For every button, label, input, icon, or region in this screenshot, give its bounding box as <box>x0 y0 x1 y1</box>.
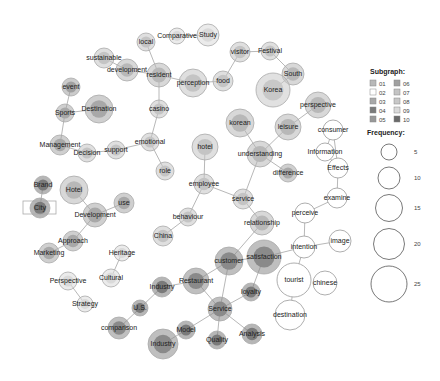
node-label: food <box>216 77 230 84</box>
node-approach[interactable]: Approach <box>58 231 88 251</box>
node-understanding[interactable]: understanding <box>238 141 282 167</box>
node-use[interactable]: use <box>114 193 134 213</box>
subgraph-legend-item-01: 01 <box>370 80 386 87</box>
node-comparison[interactable]: comparison <box>101 317 137 339</box>
node-perceive[interactable]: perceive <box>292 203 319 223</box>
legend: Subgraph: 01020304050607080910 Frequency… <box>367 68 421 302</box>
node-restaurant[interactable]: Restaurant <box>179 268 213 294</box>
frequency-circle <box>374 229 405 260</box>
node-label: Cultural <box>99 274 124 281</box>
node-heritage[interactable]: Heritage <box>109 245 136 261</box>
node-food[interactable]: food <box>213 71 233 91</box>
subgraph-legend-item-10: 10 <box>394 116 410 123</box>
node-china[interactable]: China <box>153 226 173 246</box>
node-comparative[interactable]: Comparative <box>157 28 197 44</box>
node-label: Effects <box>327 164 349 171</box>
frequency-legend-item-25: 25 <box>371 266 421 302</box>
node-behaviour[interactable]: behaviour <box>173 208 204 226</box>
node-resident[interactable]: resident <box>147 63 172 87</box>
node-marketing[interactable]: Marketing <box>34 243 65 263</box>
node-image[interactable]: image <box>329 230 351 252</box>
node-label: examine <box>324 194 351 201</box>
node-label: Restaurant <box>179 277 213 284</box>
node-label: Perspective <box>50 277 87 285</box>
subgraph-legend-item-04: 04 <box>370 107 386 114</box>
node-label: City <box>34 204 47 212</box>
node-quality[interactable]: Quality <box>206 331 228 349</box>
node-label: local <box>139 38 154 45</box>
node-destination2[interactable]: destination <box>273 300 307 330</box>
node-label: role <box>159 167 171 174</box>
node-emotional[interactable]: emotional <box>135 133 166 151</box>
node-development2[interactable]: Development <box>74 203 115 227</box>
frequency-circle <box>381 144 397 160</box>
node-chinese[interactable]: chinese <box>313 271 337 295</box>
node-relationship[interactable]: relationship <box>244 211 280 235</box>
node-perspective2[interactable]: Perspective <box>50 272 87 290</box>
node-label: Korea <box>264 86 283 93</box>
subgraph-legend-item-08: 08 <box>394 98 410 105</box>
node-service1[interactable]: service <box>232 189 254 209</box>
subgraph-legend-item-07: 07 <box>394 89 410 96</box>
node-examine[interactable]: examine <box>324 188 351 208</box>
node-korean[interactable]: korean <box>226 109 254 137</box>
subgraph-legend-item-06: 06 <box>394 80 410 87</box>
node-label: development <box>107 66 147 74</box>
nodes-layer: localComparativeStudysustainabledevelopm… <box>30 24 351 359</box>
frequency-circle <box>378 167 400 189</box>
node-us[interactable]: U.S. <box>132 300 148 316</box>
subgraph-legend-title: Subgraph: <box>370 68 405 76</box>
frequency-legend-item-10: 10 <box>378 167 421 189</box>
node-model[interactable]: Model <box>176 321 196 339</box>
node-label: Festival <box>258 47 283 54</box>
node-event[interactable]: event <box>62 78 80 96</box>
node-visitor[interactable]: visitor <box>230 42 250 62</box>
node-festival[interactable]: Festival <box>258 42 283 60</box>
node-loyalty[interactable]: loyalty <box>241 283 261 301</box>
frequency-legend-items: 510152025 <box>371 144 421 302</box>
node-intention[interactable]: intention <box>291 236 318 258</box>
node-brand[interactable]: Brand <box>34 176 53 194</box>
node-label: leisure <box>278 123 299 130</box>
node-strategy[interactable]: Strategy <box>72 296 99 312</box>
node-destination1[interactable]: Destination <box>81 95 116 123</box>
node-tourist[interactable]: tourist <box>277 263 311 297</box>
node-hotel1[interactable]: hotel <box>192 134 218 160</box>
node-perception[interactable]: perception <box>177 69 210 97</box>
node-sports[interactable]: Sports <box>55 104 76 122</box>
subgraph-label: 04 <box>379 108 386 114</box>
frequency-legend-item-5: 5 <box>381 144 418 160</box>
node-label: Industry <box>150 283 175 291</box>
node-cultural[interactable]: Cultural <box>99 269 124 287</box>
node-support[interactable]: support <box>104 141 127 159</box>
node-korea[interactable]: Korea <box>256 73 290 107</box>
frequency-label: 20 <box>414 241 421 247</box>
node-study[interactable]: Study <box>197 24 219 46</box>
subgraph-label: 10 <box>403 117 410 123</box>
node-satisfaction[interactable]: satisfaction <box>246 240 281 274</box>
subgraph-legend-item-02: 02 <box>370 89 386 96</box>
node-label: behaviour <box>173 213 204 220</box>
node-leisure[interactable]: leisure <box>275 114 301 140</box>
node-local[interactable]: local <box>137 33 155 51</box>
node-hotel2[interactable]: Hotel <box>60 176 88 204</box>
frequency-label: 5 <box>414 149 418 155</box>
node-industry1[interactable]: Industry <box>150 277 175 297</box>
node-customer[interactable]: customer <box>215 247 244 275</box>
node-label: use <box>118 199 129 206</box>
node-consumer[interactable]: consumer <box>318 120 349 140</box>
node-industry2[interactable]: Industry <box>148 329 178 359</box>
node-label: Approach <box>58 237 88 245</box>
node-label: Destination <box>81 105 116 112</box>
node-employee[interactable]: employee <box>189 174 219 194</box>
node-label: Industry <box>151 340 176 348</box>
node-label: Study <box>199 31 217 39</box>
node-label: Marketing <box>34 249 65 257</box>
node-difference[interactable]: difference <box>273 164 304 182</box>
subgraph-swatch <box>394 116 400 122</box>
node-role[interactable]: role <box>156 162 174 180</box>
node-effects[interactable]: Effects <box>327 158 349 178</box>
node-service2[interactable]: Service <box>208 297 232 321</box>
node-casino[interactable]: casino <box>149 100 169 118</box>
node-label: satisfaction <box>246 253 281 260</box>
